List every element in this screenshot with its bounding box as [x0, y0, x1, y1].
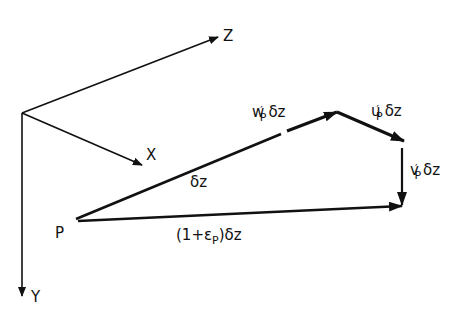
v-prime-vector: v′Pδz [402, 148, 440, 205]
u-prime-label: u′Pδz [371, 102, 402, 123]
deformation-diagram: Z X Y δz w′Pδz u′Pδz v′Pδz (1+εP)δz P [0, 0, 465, 313]
stretched-vector: (1+εP)δz [78, 206, 402, 247]
x-axis-label: X [146, 146, 156, 164]
dz-label: δz [190, 173, 207, 191]
dz-vector: δz [76, 112, 337, 219]
v-prime-label: v′Pδz [410, 161, 440, 182]
y-axis-label: Y [30, 288, 41, 306]
z-axis-label: Z [223, 27, 233, 45]
u-prime-vector: u′Pδz [337, 102, 404, 141]
w-prime-label: w′Pδz [252, 103, 286, 124]
z-axis [22, 37, 218, 113]
point-p-label: P [55, 224, 64, 242]
x-axis [22, 113, 142, 165]
stretched-label: (1+εP)δz [176, 226, 242, 247]
